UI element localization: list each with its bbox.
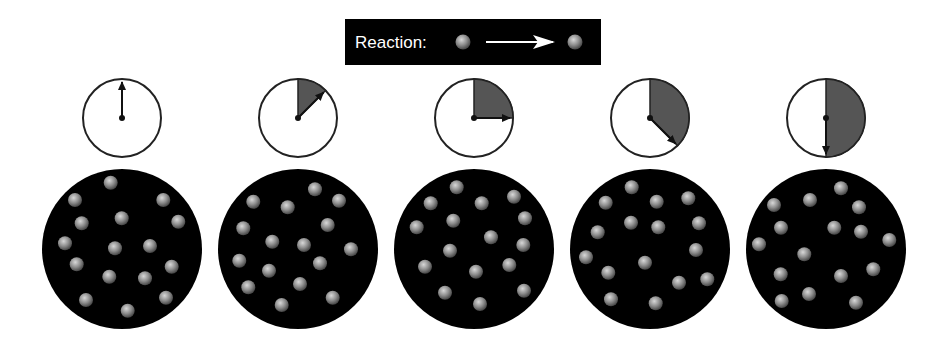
molecule-sphere bbox=[689, 243, 703, 257]
reaction-container bbox=[218, 169, 378, 329]
molecule-sphere bbox=[344, 242, 358, 256]
molecule-sphere bbox=[484, 230, 498, 244]
molecule-sphere bbox=[321, 218, 335, 232]
molecule-sphere bbox=[418, 260, 432, 274]
molecule-sphere bbox=[774, 267, 788, 281]
product-sphere-icon bbox=[568, 35, 583, 50]
molecule-sphere bbox=[475, 196, 489, 210]
molecule-sphere bbox=[502, 258, 516, 272]
molecule-sphere bbox=[507, 190, 521, 204]
molecule-sphere bbox=[293, 277, 307, 291]
molecule-sphere bbox=[827, 221, 841, 235]
molecule-sphere bbox=[265, 235, 279, 249]
molecule-sphere bbox=[143, 239, 157, 253]
molecule-sphere bbox=[313, 256, 327, 270]
molecule-sphere bbox=[326, 291, 340, 305]
timer-clock bbox=[787, 79, 865, 157]
molecule-sphere bbox=[165, 260, 179, 274]
molecule-sphere bbox=[332, 194, 346, 208]
molecule-sphere bbox=[410, 220, 424, 234]
timer-clock bbox=[259, 79, 337, 157]
molecule-sphere bbox=[591, 225, 605, 239]
container-row bbox=[42, 169, 906, 329]
reaction-container bbox=[394, 169, 554, 329]
molecule-sphere bbox=[518, 211, 532, 225]
molecule-sphere bbox=[624, 216, 638, 230]
molecule-sphere bbox=[802, 287, 816, 301]
molecule-sphere bbox=[297, 238, 311, 252]
clock-pivot bbox=[823, 115, 829, 121]
molecule-sphere bbox=[866, 262, 880, 276]
elapsed-time-wedge bbox=[474, 79, 513, 118]
molecule-sphere bbox=[852, 200, 866, 214]
molecule-sphere bbox=[446, 214, 460, 228]
molecule-sphere bbox=[473, 297, 487, 311]
reaction-container bbox=[42, 169, 202, 329]
reaction-legend: Reaction: bbox=[345, 19, 601, 65]
molecule-sphere bbox=[803, 193, 817, 207]
molecule-sphere bbox=[156, 193, 170, 207]
container-circle bbox=[746, 169, 906, 329]
molecule-sphere bbox=[438, 286, 452, 300]
elapsed-time-wedge bbox=[826, 79, 865, 157]
molecule-sphere bbox=[752, 237, 766, 251]
molecule-sphere bbox=[469, 265, 483, 279]
molecule-sphere bbox=[517, 284, 531, 298]
reaction-container bbox=[746, 169, 906, 329]
molecule-sphere bbox=[797, 247, 811, 261]
molecule-sphere bbox=[775, 294, 789, 308]
molecule-sphere bbox=[774, 221, 788, 235]
molecule-sphere bbox=[638, 256, 652, 270]
molecule-sphere bbox=[424, 196, 438, 210]
molecule-sphere bbox=[308, 182, 322, 196]
molecule-sphere bbox=[68, 193, 82, 207]
molecule-sphere bbox=[281, 200, 295, 214]
molecule-sphere bbox=[102, 270, 116, 284]
molecule-sphere bbox=[138, 271, 152, 285]
molecule-sphere bbox=[75, 216, 89, 230]
molecule-sphere bbox=[108, 241, 122, 255]
molecule-sphere bbox=[692, 216, 706, 230]
molecule-sphere bbox=[834, 269, 848, 283]
reaction-container bbox=[570, 169, 730, 329]
molecule-sphere bbox=[579, 250, 593, 264]
reactant-sphere-icon bbox=[456, 35, 471, 50]
clock-pivot bbox=[647, 115, 653, 121]
molecule-sphere bbox=[262, 264, 276, 278]
molecule-sphere bbox=[104, 176, 118, 190]
molecule-sphere bbox=[236, 221, 250, 235]
molecule-sphere bbox=[700, 272, 714, 286]
clock-pivot bbox=[295, 115, 301, 121]
molecule-sphere bbox=[275, 298, 289, 312]
molecule-sphere bbox=[767, 198, 781, 212]
molecule-sphere bbox=[834, 181, 848, 195]
molecule-sphere bbox=[159, 291, 173, 305]
molecule-sphere bbox=[599, 196, 613, 210]
molecule-sphere bbox=[681, 191, 695, 205]
molecule-sphere bbox=[516, 238, 530, 252]
molecule-sphere bbox=[232, 254, 246, 268]
molecule-sphere bbox=[443, 244, 457, 258]
legend-label: Reaction: bbox=[355, 33, 427, 52]
molecule-sphere bbox=[115, 211, 129, 225]
timer-clock bbox=[83, 79, 161, 157]
molecule-sphere bbox=[246, 195, 260, 209]
clock-pivot bbox=[471, 115, 477, 121]
molecule-sphere bbox=[70, 257, 84, 271]
timer-clock bbox=[435, 79, 513, 157]
molecule-sphere bbox=[450, 180, 464, 194]
reaction-diagram: Reaction: bbox=[0, 0, 941, 347]
molecule-sphere bbox=[672, 276, 686, 290]
timer-clock bbox=[611, 79, 689, 157]
molecule-sphere bbox=[58, 236, 72, 250]
molecule-sphere bbox=[121, 304, 135, 318]
clock-pivot bbox=[119, 115, 125, 121]
molecule-sphere bbox=[651, 220, 665, 234]
molecule-sphere bbox=[625, 180, 639, 194]
molecule-sphere bbox=[849, 296, 863, 310]
clock-row bbox=[83, 79, 865, 157]
molecule-sphere bbox=[604, 292, 618, 306]
molecule-sphere bbox=[601, 266, 615, 280]
molecule-sphere bbox=[854, 225, 868, 239]
molecule-sphere bbox=[650, 195, 664, 209]
